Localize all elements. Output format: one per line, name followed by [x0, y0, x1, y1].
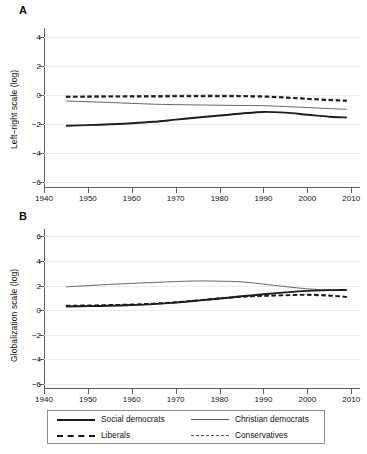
legend-item-christian-democrats: Christian democrats [186, 414, 324, 424]
panel-b-label: B [19, 210, 27, 222]
x-tick-mark [351, 389, 352, 394]
x-tick-label: 1980 [211, 395, 229, 404]
series-line-social-democrats [66, 112, 347, 126]
x-tick-mark [132, 188, 133, 193]
y-tick-label: 2 [37, 281, 41, 290]
x-tick-mark [176, 188, 177, 193]
x-tick-mark [263, 188, 264, 193]
chart-legend: Social democrats Christian democrats Lib… [47, 410, 325, 444]
y-tick-label: −2 [32, 120, 41, 129]
legend-item-liberals: Liberals [48, 430, 186, 440]
x-tick-mark [132, 389, 133, 394]
y-tick-label: 4 [37, 257, 41, 266]
y-tick-label: 0 [37, 90, 41, 99]
series-line-christian-democrats [66, 281, 347, 291]
y-tick-label: 0 [37, 306, 41, 315]
x-tick-mark [176, 389, 177, 394]
y-tick-label: −4 [32, 355, 41, 364]
panel-b-x-ticks: 19401950196019701980199020002010 [44, 389, 360, 411]
x-tick-label: 1950 [79, 395, 97, 404]
legend-swatch-social-democrats [57, 415, 95, 423]
panel-a-plot-area: 420−2−4−6 194019501960197019801990200020… [44, 28, 360, 188]
legend-item-social-democrats: Social democrats [48, 414, 186, 424]
panel-b-plot-area: 6420−2−4−6 19401950196019701980199020002… [44, 229, 360, 389]
x-tick-label: 2000 [298, 395, 316, 404]
y-tick-label: 2 [37, 61, 41, 70]
x-tick-mark [44, 188, 45, 193]
x-tick-mark [88, 389, 89, 394]
legend-label-liberals: Liberals [101, 430, 130, 440]
legend-swatch-conservatives [191, 431, 229, 439]
panel-b: B Globalization scale (log) 6420−2−4−6 1… [0, 205, 367, 400]
series-line-social-democrats [66, 290, 347, 307]
x-tick-label: 1940 [35, 395, 53, 404]
x-tick-label: 1990 [255, 395, 273, 404]
y-tick-label: −6 [32, 178, 41, 187]
y-tick-label: 4 [37, 32, 41, 41]
x-tick-mark [88, 188, 89, 193]
x-tick-label: 1970 [167, 194, 185, 203]
panel-a-series-layer [44, 28, 360, 188]
panel-b-y-axis-label: Globalization scale (log) [9, 245, 19, 385]
x-tick-label: 2000 [298, 194, 316, 203]
legend-label-social-democrats: Social democrats [101, 414, 165, 424]
panel-a-label: A [19, 4, 27, 16]
x-tick-label: 1980 [211, 194, 229, 203]
legend-swatch-liberals [57, 431, 95, 439]
legend-swatch-christian-democrats [191, 415, 229, 423]
series-line-liberals [66, 96, 347, 101]
x-tick-label: 1960 [123, 395, 141, 404]
x-tick-mark [263, 389, 264, 394]
x-tick-mark [307, 188, 308, 193]
x-tick-label: 1970 [167, 395, 185, 404]
x-tick-label: 2010 [342, 194, 360, 203]
x-tick-mark [44, 389, 45, 394]
legend-label-christian-democrats: Christian democrats [235, 414, 309, 424]
y-tick-label: −2 [32, 330, 41, 339]
legend-grid: Social democrats Christian democrats Lib… [48, 411, 324, 443]
y-tick-label: 6 [37, 232, 41, 241]
x-tick-mark [220, 188, 221, 193]
x-tick-label: 1940 [35, 194, 53, 203]
y-tick-label: −4 [32, 149, 41, 158]
panel-b-series-layer [44, 229, 360, 389]
x-tick-label: 2010 [342, 395, 360, 404]
series-line-conservatives [66, 95, 347, 100]
x-tick-label: 1960 [123, 194, 141, 203]
panel-a-y-axis-label: Left–right scale (log) [9, 44, 19, 174]
x-tick-mark [351, 188, 352, 193]
legend-item-conservatives: Conservatives [186, 430, 324, 440]
legend-label-conservatives: Conservatives [235, 430, 288, 440]
x-tick-label: 1990 [255, 194, 273, 203]
series-line-christian-democrats [66, 101, 347, 109]
x-tick-mark [220, 389, 221, 394]
x-tick-mark [307, 389, 308, 394]
panel-a: A Left–right scale (log) 420−2−4−6 19401… [0, 0, 367, 205]
y-tick-label: −6 [32, 380, 41, 389]
x-tick-label: 1950 [79, 194, 97, 203]
